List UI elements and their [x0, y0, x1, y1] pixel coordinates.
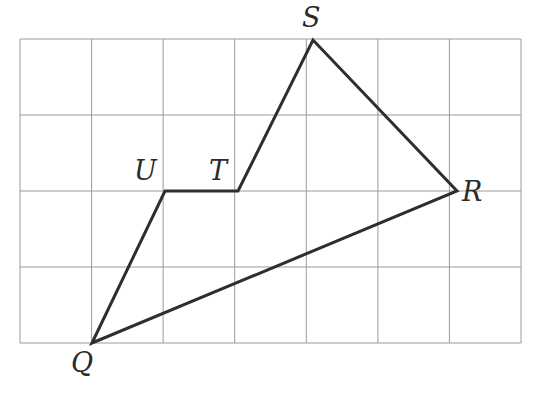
geometry-figure: QUTSR [0, 0, 535, 410]
vertex-label-t: T [209, 157, 227, 184]
vertex-label-r: R [462, 178, 482, 205]
grid-layer [20, 39, 521, 343]
vertex-label-s: S [302, 4, 321, 31]
vertex-label-q: Q [71, 349, 93, 376]
vertex-label-u: U [134, 157, 157, 184]
